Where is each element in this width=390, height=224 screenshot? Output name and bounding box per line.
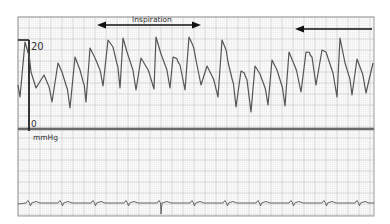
left-arrow: [295, 26, 372, 33]
y-axis-units: mmHg: [33, 133, 58, 142]
y-tick-0: 0: [31, 119, 37, 129]
y-tick-20: 20: [31, 41, 44, 52]
inspiration-label: Inspiration: [132, 15, 172, 24]
chart-grid: [18, 17, 374, 216]
pressure-tracing-chart: 20 0 mmHg Inspiration: [0, 0, 390, 224]
